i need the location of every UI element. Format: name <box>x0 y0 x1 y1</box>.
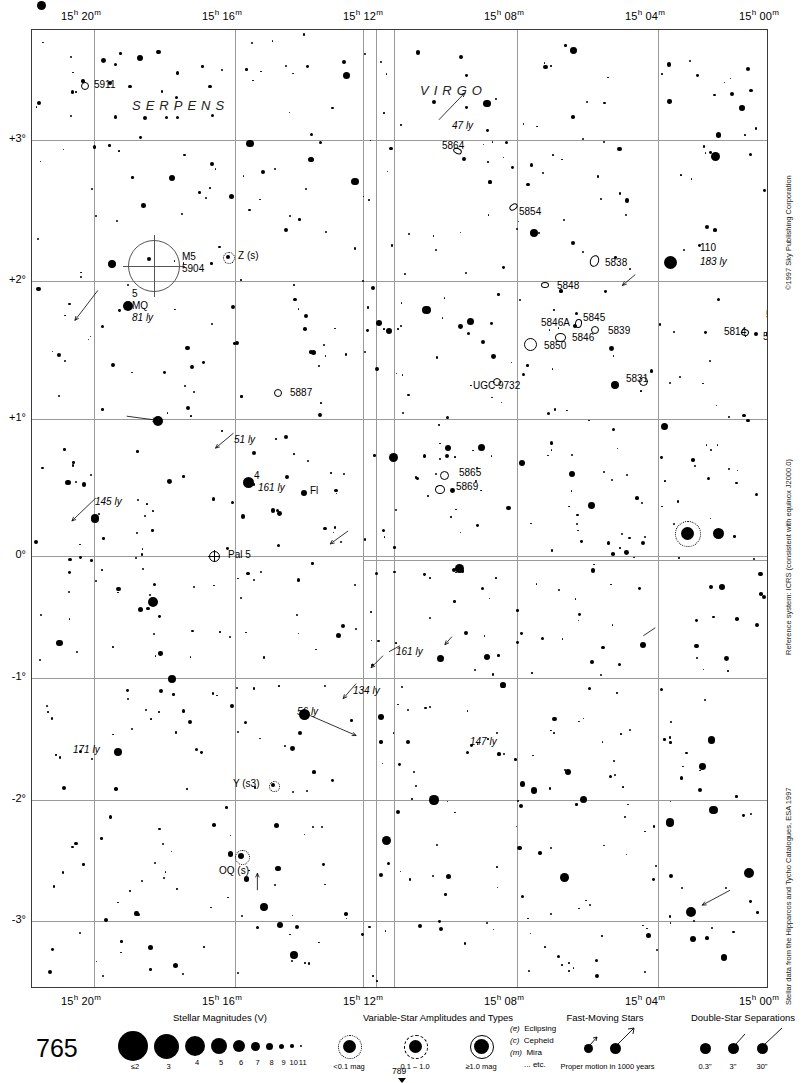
star <box>127 698 129 700</box>
star <box>614 774 616 776</box>
star <box>284 228 288 232</box>
star <box>575 803 578 806</box>
galaxy-symbol <box>541 282 549 288</box>
ra-tick-top-04: 15h 04m <box>625 8 665 22</box>
star <box>517 846 521 850</box>
star <box>46 705 48 707</box>
star <box>171 851 172 852</box>
star <box>231 501 234 504</box>
star <box>101 569 103 571</box>
star <box>733 535 736 538</box>
star <box>703 145 705 147</box>
star <box>364 351 366 353</box>
star <box>516 641 519 644</box>
star <box>670 922 671 923</box>
star <box>274 168 276 170</box>
star <box>660 688 663 691</box>
label-pal-5: Pal 5 <box>228 549 251 560</box>
star <box>308 157 314 163</box>
star <box>158 615 161 618</box>
legend-magnitude-label-4: 4 <box>190 1058 204 1067</box>
legend-magnitude-dot-5 <box>211 1038 227 1054</box>
star <box>465 106 468 109</box>
star <box>689 60 691 62</box>
star <box>749 153 752 156</box>
star <box>483 144 484 145</box>
star <box>640 390 642 392</box>
star-field-plot[interactable]: 591158645854583858485846A584558465839585… <box>32 30 767 987</box>
legend-magnitude-dot-8 <box>266 1043 273 1050</box>
star <box>368 199 370 201</box>
star <box>146 607 149 610</box>
star <box>285 65 287 67</box>
star <box>704 331 707 334</box>
star <box>759 592 763 596</box>
star <box>444 893 447 896</box>
star <box>400 325 402 327</box>
star <box>245 632 246 633</box>
star <box>532 755 534 757</box>
star <box>393 546 396 549</box>
star <box>716 132 721 137</box>
star <box>213 585 214 586</box>
star <box>595 959 598 962</box>
star <box>333 532 335 534</box>
star <box>342 60 346 64</box>
star <box>76 651 78 653</box>
star <box>354 247 357 250</box>
star <box>445 454 449 458</box>
star <box>696 74 699 77</box>
star <box>312 770 316 774</box>
dec-tick-+3: +3° <box>0 132 26 144</box>
star <box>210 907 212 909</box>
label-5845: 5845 <box>583 312 605 323</box>
star <box>698 788 703 793</box>
star <box>277 544 280 547</box>
star <box>460 232 462 234</box>
star <box>252 80 254 82</box>
star <box>607 77 608 78</box>
star <box>101 408 104 411</box>
legend-magnitude-dot-9 <box>279 1044 284 1049</box>
star <box>91 758 93 760</box>
star <box>396 373 398 375</box>
star <box>112 646 113 647</box>
star <box>517 800 519 802</box>
star <box>203 946 204 947</box>
star <box>237 731 239 733</box>
star <box>450 516 452 518</box>
star <box>699 770 701 772</box>
star <box>237 972 239 974</box>
pal-vbar <box>214 550 215 563</box>
star <box>465 272 467 274</box>
star <box>406 740 410 744</box>
star <box>298 218 301 221</box>
star <box>603 102 606 105</box>
star <box>595 974 599 978</box>
star <box>252 451 256 455</box>
star <box>756 911 759 914</box>
label-star-110: 110 <box>700 242 716 253</box>
star <box>395 509 397 511</box>
star <box>601 646 604 649</box>
star <box>427 495 429 497</box>
star <box>259 199 261 201</box>
star <box>603 141 605 143</box>
star <box>644 831 646 833</box>
star <box>63 448 66 451</box>
label-5850: 5850 <box>544 340 566 351</box>
star <box>131 728 133 730</box>
grid-line-ra <box>658 30 659 987</box>
star <box>377 640 380 643</box>
star <box>604 290 607 293</box>
star <box>205 197 207 199</box>
star <box>201 65 204 68</box>
star <box>627 804 628 805</box>
grid-line-dec <box>32 800 767 801</box>
star <box>488 214 489 215</box>
star <box>749 900 752 903</box>
bright-star <box>664 256 677 269</box>
star <box>696 657 698 659</box>
star <box>519 460 525 466</box>
star <box>550 730 551 731</box>
